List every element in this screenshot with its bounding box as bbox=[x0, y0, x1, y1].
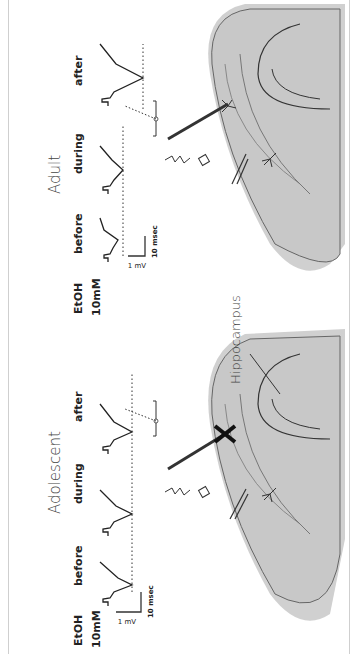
condition-after-adult: after bbox=[72, 55, 85, 86]
hippocampus-drawing-adolescent bbox=[165, 329, 345, 621]
etoh-label: EtOH bbox=[72, 615, 85, 646]
condition-before-adult: before bbox=[72, 213, 85, 254]
panel-adolescent: Adolescent EtOH 10mM before during after… bbox=[46, 329, 345, 648]
panel-title-adolescent: Adolescent bbox=[46, 431, 64, 514]
condition-after: after bbox=[72, 391, 85, 422]
condition-during: during bbox=[72, 463, 85, 504]
concentration-label: 10mM bbox=[90, 610, 103, 648]
concentration-label-adult: 10mM bbox=[90, 278, 103, 316]
svg-text:1 mV: 1 mV bbox=[118, 618, 136, 626]
condition-before: before bbox=[72, 545, 85, 586]
etoh-label-adult: EtOH bbox=[72, 283, 85, 314]
svg-text:1 mV: 1 mV bbox=[128, 262, 146, 270]
scale-bar: 1 mV 10 msec bbox=[116, 585, 155, 626]
panel-adult: Adult EtOH 10mM before during after 1 mV… bbox=[46, 4, 345, 316]
panel-title-adult: Adult bbox=[46, 155, 64, 194]
condition-during-adult: during bbox=[72, 133, 85, 174]
epsp-traces-adult bbox=[100, 44, 143, 262]
epsp-traces bbox=[100, 404, 132, 606]
hippocampus-drawing-adult bbox=[165, 4, 345, 271]
region-label: Hippocampus bbox=[228, 295, 243, 384]
svg-text:10 msec: 10 msec bbox=[147, 585, 155, 618]
svg-text:10 msec: 10 msec bbox=[151, 225, 159, 258]
recording-pointer-adult bbox=[125, 101, 158, 136]
rotated-figure: Adolescent EtOH 10mM before during after… bbox=[0, 0, 356, 654]
scale-bar-adult: 1 mV 10 msec bbox=[128, 225, 159, 270]
